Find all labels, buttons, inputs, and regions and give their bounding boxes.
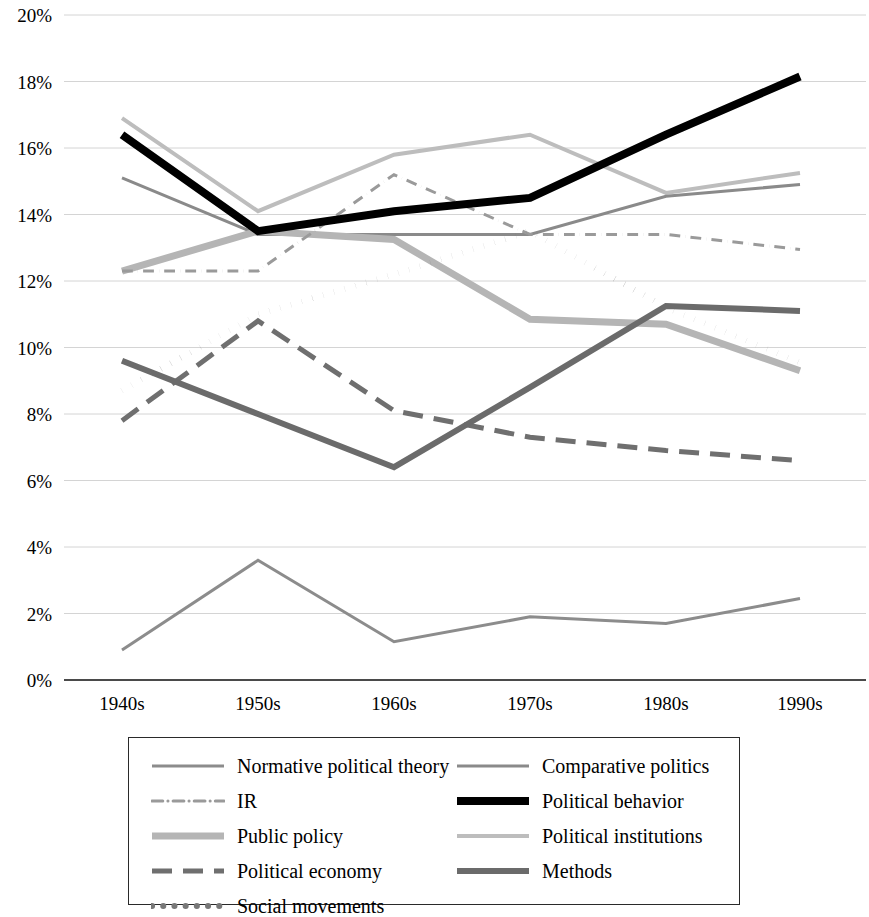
legend-label: Normative political theory <box>237 756 449 776</box>
legend-swatch-icon <box>456 793 530 809</box>
chart-legend: Normative political theoryComparative po… <box>128 737 740 905</box>
x-axis-tick-label: 1980s <box>643 693 688 714</box>
series-line <box>122 77 800 232</box>
y-axis-tick-labels: 0%2%4%6%8%10%12%14%16%18%20% <box>17 5 52 691</box>
legend-item[interactable]: Comparative politics <box>434 748 739 783</box>
y-axis-tick-label: 0% <box>27 670 53 691</box>
y-axis-tick-label: 2% <box>27 604 53 625</box>
series-line <box>122 560 800 650</box>
series-line <box>122 231 800 391</box>
y-axis-tick-label: 20% <box>17 5 52 26</box>
y-axis-tick-label: 16% <box>17 138 52 159</box>
y-axis-tick-label: 14% <box>17 205 52 226</box>
y-axis-tick-label: 10% <box>17 338 52 359</box>
legend-label: Comparative politics <box>542 756 709 776</box>
legend-label: Political economy <box>237 861 382 881</box>
legend-label: IR <box>237 791 257 811</box>
legend-label: Political behavior <box>542 791 684 811</box>
series-line <box>122 118 800 211</box>
legend-swatch-icon <box>151 863 225 879</box>
series-lines <box>122 77 800 651</box>
legend-item[interactable]: Political behavior <box>434 783 739 818</box>
legend-label: Public policy <box>237 826 343 846</box>
x-axis-tick-labels: 1940s1950s1960s1970s1980s1990s <box>99 693 822 714</box>
legend-items: Normative political theoryComparative po… <box>129 748 739 904</box>
legend-swatch-icon <box>456 828 530 844</box>
y-axis-tick-label: 12% <box>17 271 52 292</box>
legend-label: Social movements <box>237 896 384 916</box>
legend-item[interactable]: Normative political theory <box>129 748 434 783</box>
series-line <box>122 321 800 461</box>
x-axis-tick-label: 1960s <box>371 693 416 714</box>
y-axis-tick-label: 6% <box>27 471 53 492</box>
legend-item[interactable]: Political economy <box>129 853 434 888</box>
y-axis-tick-label: 8% <box>27 404 53 425</box>
plot-area: 0%2%4%6%8%10%12%14%16%18%20% 1940s1950s1… <box>0 0 869 730</box>
legend-swatch-icon <box>151 828 225 844</box>
series-line <box>122 231 800 371</box>
legend-swatch-icon <box>151 758 225 774</box>
x-axis-tick-label: 1950s <box>235 693 280 714</box>
legend-swatch-icon <box>456 758 530 774</box>
legend-item[interactable]: Public policy <box>129 818 434 853</box>
series-line <box>122 306 800 467</box>
x-axis-tick-label: 1970s <box>507 693 552 714</box>
legend-label: Methods <box>542 861 612 881</box>
gridlines <box>64 15 866 680</box>
x-axis-tick-label: 1940s <box>99 693 144 714</box>
legend-label: Political institutions <box>542 826 703 846</box>
y-axis-tick-label: 18% <box>17 72 52 93</box>
legend-item[interactable]: Political institutions <box>434 818 739 853</box>
x-axis-tick-label: 1990s <box>777 693 822 714</box>
legend-swatch-icon <box>151 898 225 914</box>
legend-item[interactable]: IR <box>129 783 434 818</box>
legend-item[interactable]: Methods <box>434 853 739 888</box>
legend-swatch-icon <box>151 793 225 809</box>
legend-swatch-icon <box>456 863 530 879</box>
legend-item[interactable]: Social movements <box>129 888 434 917</box>
y-axis-tick-label: 4% <box>27 537 53 558</box>
